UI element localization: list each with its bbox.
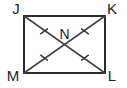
geometry-figure: J K L M N: [0, 0, 127, 88]
vertex-label-j: J: [12, 0, 20, 17]
figure-canvas: J K L M N: [0, 0, 127, 88]
vertex-label-l: L: [108, 67, 116, 84]
vertex-label-k: K: [107, 0, 117, 17]
point-label-n: N: [59, 26, 69, 42]
vertex-label-m: M: [7, 67, 20, 84]
